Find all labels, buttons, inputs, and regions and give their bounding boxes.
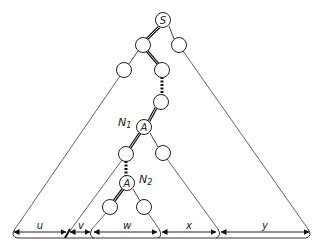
width-label-w: w	[123, 220, 132, 231]
width-label-x: x	[185, 220, 192, 231]
node	[136, 38, 151, 53]
width-label-u: u	[37, 220, 43, 231]
node	[172, 38, 187, 53]
node	[154, 95, 169, 110]
node-label-s: S	[160, 15, 167, 26]
node	[103, 200, 118, 215]
node	[155, 63, 170, 78]
width-label-y: y	[261, 220, 269, 231]
width-label-v: v	[78, 220, 85, 231]
node-label-a1: A	[140, 122, 148, 133]
uv-divider-mark	[65, 229, 70, 238]
node	[137, 200, 152, 215]
tree-diagram: S A A N1 N2 u v w x y	[0, 0, 322, 252]
node	[117, 63, 132, 78]
annotation-n1: N1	[118, 116, 131, 130]
annotation-n2: N2	[139, 173, 152, 187]
node	[156, 146, 171, 161]
node	[119, 147, 134, 162]
node-label-a2: A	[123, 178, 131, 189]
